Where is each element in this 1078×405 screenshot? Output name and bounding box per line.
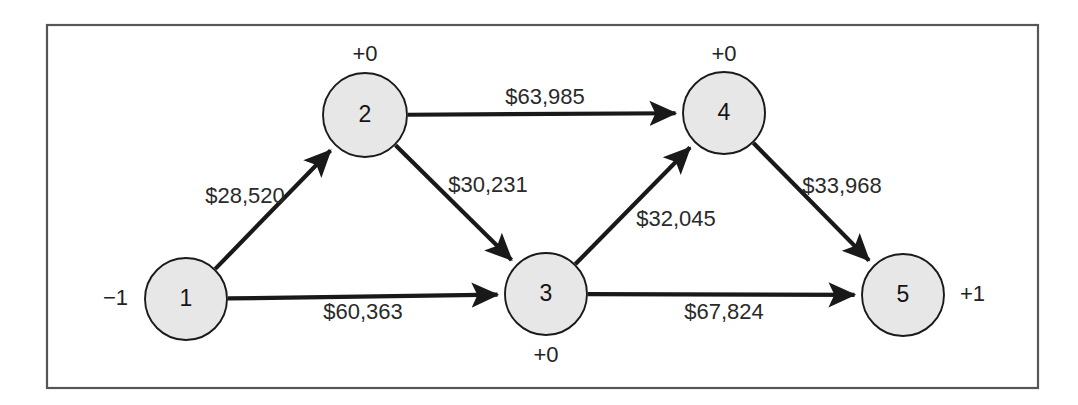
edge-cost-label-3-4: $32,045: [636, 206, 716, 231]
edge-cost-label-1-3: $60,363: [323, 299, 403, 324]
node-supply-label-5: +1: [960, 281, 985, 306]
node-label-2: 2: [359, 101, 372, 127]
node-supply-label-4: +0: [711, 41, 736, 66]
edge-3-to-5: [588, 294, 855, 295]
edge-cost-label-2-3: $30,231: [448, 172, 528, 197]
node-supply-label-3: +0: [533, 342, 558, 367]
network-diagram-svg: 12345 $28,520$60,363$63,985$30,231$32,04…: [0, 0, 1078, 405]
edge-2-to-4: [408, 113, 676, 114]
node-label-5: 5: [897, 281, 910, 307]
edge-cost-label-2-4: $63,985: [505, 84, 585, 109]
node-supply-label-1: −1: [103, 285, 128, 310]
node-label-3: 3: [540, 280, 553, 306]
edge-cost-label-4-5: $33,968: [802, 173, 882, 198]
edge-cost-label-1-2: $28,520: [205, 183, 285, 208]
edge-cost-label-3-5: $67,824: [684, 299, 764, 324]
network-flow-figure: 12345 $28,520$60,363$63,985$30,231$32,04…: [0, 0, 1078, 405]
node-label-1: 1: [180, 285, 193, 311]
node-supply-label-2: +0: [352, 41, 377, 66]
node-label-4: 4: [718, 99, 731, 125]
